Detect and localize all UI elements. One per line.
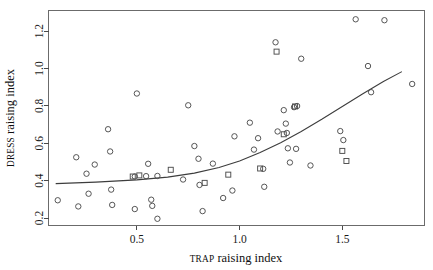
y-tick-label-1.0: 1.0 [34, 61, 46, 76]
data-point-circle [247, 120, 252, 125]
x-axis-title: TRAP raising index [190, 251, 283, 265]
x-axis-title-smallcaps: TRAP [190, 254, 215, 264]
x-axis-title-rest: raising index [214, 251, 283, 265]
y-tick-label-0.6: 0.6 [34, 136, 46, 151]
data-points [55, 17, 415, 222]
data-point-circle [92, 162, 97, 167]
data-point-square [202, 180, 207, 185]
svg-text:TRAP raising index: TRAP raising index [190, 251, 283, 265]
data-point-circle [149, 197, 154, 202]
data-point-circle [299, 56, 304, 61]
data-point-circle [287, 160, 292, 165]
data-point-circle [232, 134, 237, 139]
data-point-circle [143, 173, 148, 178]
data-point-circle [255, 135, 260, 140]
data-point-circle [107, 149, 112, 154]
data-point-circle [283, 121, 288, 126]
data-point-circle [108, 187, 113, 192]
y-tick-label-1.2: 1.2 [34, 24, 46, 39]
data-point-circle [230, 188, 235, 193]
data-point-circle [155, 216, 160, 221]
fit-curve [56, 72, 402, 184]
data-point-circle [251, 147, 256, 152]
data-point-square [226, 172, 231, 177]
x-tick-label-0.5: 0.5 [130, 233, 145, 245]
x-tick-labels: 0.51.01.5 [130, 233, 350, 245]
y-axis-title-rest: raising index [3, 68, 17, 137]
data-point-circle [284, 130, 289, 135]
y-axis-title-smallcaps: DRESS [6, 137, 16, 167]
data-point-circle [180, 177, 185, 182]
data-point-circle [281, 107, 286, 112]
data-point-circle [84, 171, 89, 176]
y-axis-ticks [44, 31, 49, 218]
y-tick-labels: 0.20.40.60.81.01.2 [34, 24, 46, 226]
y-tick-label-0.4: 0.4 [34, 173, 46, 188]
data-point-circle [109, 202, 114, 207]
data-point-circle [196, 156, 201, 161]
data-point-square [344, 159, 349, 164]
data-point-circle [197, 182, 202, 187]
data-point-circle [210, 161, 215, 166]
data-point-circle [308, 163, 313, 168]
x-tick-label-1.0: 1.0 [232, 233, 247, 245]
data-point-square [168, 167, 173, 172]
svg-text:DRESS raising index: DRESS raising index [3, 68, 17, 167]
smoothed-fit-line [56, 72, 402, 184]
data-point-square [340, 148, 345, 153]
data-point-circle [192, 143, 197, 148]
data-point-circle [186, 103, 191, 108]
data-point-circle [132, 206, 137, 211]
data-point-circle [105, 127, 110, 132]
data-point-circle [365, 63, 370, 68]
scatter-plot-figure: 0.51.01.5 0.20.40.60.81.01.2 TRAP raisin… [0, 0, 433, 270]
data-point-circle [86, 191, 91, 196]
data-point-circle [200, 208, 205, 213]
data-point-circle [382, 18, 387, 23]
data-point-circle [273, 40, 278, 45]
y-axis-title: DRESS raising index [3, 68, 17, 167]
data-point-circle [338, 128, 343, 133]
data-point-circle [76, 204, 81, 209]
y-tick-label-0.8: 0.8 [34, 98, 46, 113]
data-point-circle [55, 198, 60, 203]
data-point-circle [275, 129, 280, 134]
data-point-circle [353, 17, 358, 22]
data-point-circle [150, 203, 155, 208]
plot-canvas: 0.51.01.5 0.20.40.60.81.01.2 TRAP raisin… [0, 0, 433, 270]
data-point-circle [220, 195, 225, 200]
data-point-circle [368, 90, 373, 95]
plot-frame [49, 11, 425, 226]
data-point-circle [262, 184, 267, 189]
y-tick-label-0.2: 0.2 [34, 211, 46, 226]
data-point-circle [293, 146, 298, 151]
data-point-circle [341, 137, 346, 142]
data-point-circle [409, 81, 414, 86]
x-axis-ticks [137, 226, 342, 231]
data-point-circle [134, 91, 139, 96]
data-point-circle [285, 146, 290, 151]
data-point-circle [74, 155, 79, 160]
x-tick-label-1.5: 1.5 [335, 233, 350, 245]
data-point-square [274, 49, 279, 54]
data-point-circle [145, 161, 150, 166]
